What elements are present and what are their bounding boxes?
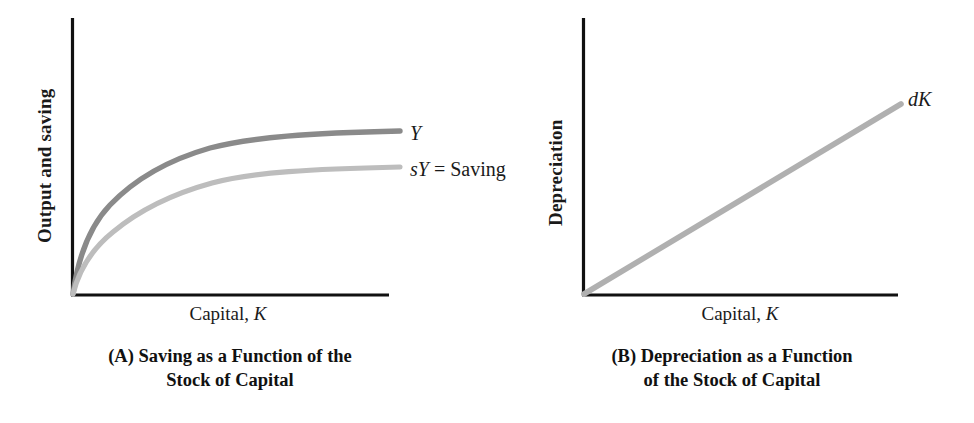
panel-a-saving-curve-label-eq: = bbox=[429, 158, 450, 180]
panel-a-saving-chart: Output and saving Capital, K Y sY = Savi… bbox=[0, 0, 487, 423]
panel-a-y-axis-label: Output and saving bbox=[34, 89, 56, 243]
panel-a-saving-curve bbox=[73, 167, 400, 294]
panel-b-depreciation-chart: Depreciation Capital, K dK (B) Depreciat… bbox=[487, 0, 974, 423]
panel-b-x-axis-label: Capital, K bbox=[650, 303, 830, 325]
panel-b-y-axis-label: Depreciation bbox=[545, 119, 567, 226]
panel-a-caption: (A) Saving as a Function of the Stock of… bbox=[30, 345, 430, 392]
panel-b-depreciation-line-label: dK bbox=[908, 88, 931, 111]
panel-a-x-axis-label-text: Capital, bbox=[189, 303, 253, 324]
figure-container: Output and saving Capital, K Y sY = Savi… bbox=[0, 0, 974, 423]
panel-b-depreciation-label-k: K bbox=[918, 88, 931, 110]
panel-b-x-axis-label-text: Capital, bbox=[701, 303, 765, 324]
panel-a-output-curve bbox=[73, 131, 400, 294]
panel-a-saving-curve-label-var: sY bbox=[410, 158, 429, 180]
panel-b-x-axis-label-var: K bbox=[766, 303, 779, 324]
panel-b-caption: (B) Depreciation as a Function of the St… bbox=[527, 345, 937, 392]
panel-a-x-axis-label-var: K bbox=[254, 303, 267, 324]
panel-b-depreciation-label-d: d bbox=[908, 88, 918, 110]
panel-b-depreciation-line bbox=[584, 104, 901, 294]
panel-a-output-curve-label: Y bbox=[410, 122, 421, 145]
panel-a-output-curve-label-text: Y bbox=[410, 122, 421, 144]
panel-a-x-axis-label: Capital, K bbox=[138, 303, 318, 325]
